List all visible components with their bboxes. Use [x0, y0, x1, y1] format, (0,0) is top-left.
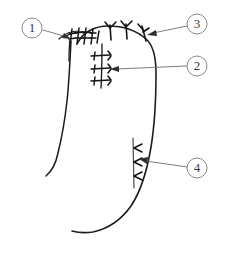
- ladder-stitch-bar: [83, 32, 90, 33]
- callout-markers: 1 3 2 4: [22, 14, 207, 178]
- callout-marker-2[interactable]: 2: [187, 56, 207, 76]
- callout-3-label: 3: [194, 16, 201, 31]
- ladder-stitch: [91, 29, 93, 44]
- callout-2-label: 2: [194, 58, 201, 73]
- callout-marker-3[interactable]: 3: [187, 14, 207, 34]
- mid-ladder-suture-group: [91, 44, 111, 88]
- ladder-stitch: [84, 28, 86, 44]
- barbed-mark: [134, 172, 142, 176]
- barbed-mark: [134, 162, 142, 166]
- barbed-mark: [134, 148, 142, 152]
- ladder-rung-tick: [108, 81, 111, 85]
- ladder-stitch-bar: [76, 32, 83, 33]
- ladder-stitch-bar: [69, 33, 76, 34]
- mid-suture-stem: [101, 44, 102, 88]
- callout-marker-4[interactable]: 4: [187, 158, 207, 178]
- arc-barbed-suture-group: [105, 21, 149, 41]
- lower-suture-guideline: [133, 138, 134, 188]
- lower-barbed-suture-group: [133, 138, 142, 188]
- barbed-mark: [134, 176, 142, 180]
- anatomical-outline: [46, 26, 156, 233]
- callout-leaders: [43, 26, 187, 167]
- surgical-diagram-svg: 1 3 2 4: [0, 0, 225, 259]
- callout-2-arrowhead: [110, 66, 119, 72]
- barbed-mark: [134, 144, 142, 148]
- callout-4-leader: [146, 161, 187, 167]
- callout-3-arrowhead: [147, 30, 157, 36]
- callout-4-label: 4: [194, 160, 201, 175]
- barbed-stitch-wing: [126, 21, 132, 27]
- left-contour-path: [46, 41, 71, 176]
- ladder-side-tick: [94, 52, 95, 60]
- figure-container: 1 3 2 4: [0, 0, 225, 259]
- callout-marker-1[interactable]: 1: [22, 18, 42, 38]
- callout-1-label: 1: [29, 20, 36, 35]
- top-dome-arc: [77, 26, 146, 44]
- ladder-stitch: [97, 31, 99, 43]
- ladder-side-tick: [94, 77, 95, 85]
- callout-2-leader: [116, 66, 187, 69]
- ladder-side-tick: [94, 65, 95, 73]
- ladder-rung-tick: [108, 56, 111, 60]
- ladder-rung-tick: [108, 69, 111, 73]
- callout-3-leader: [153, 26, 187, 33]
